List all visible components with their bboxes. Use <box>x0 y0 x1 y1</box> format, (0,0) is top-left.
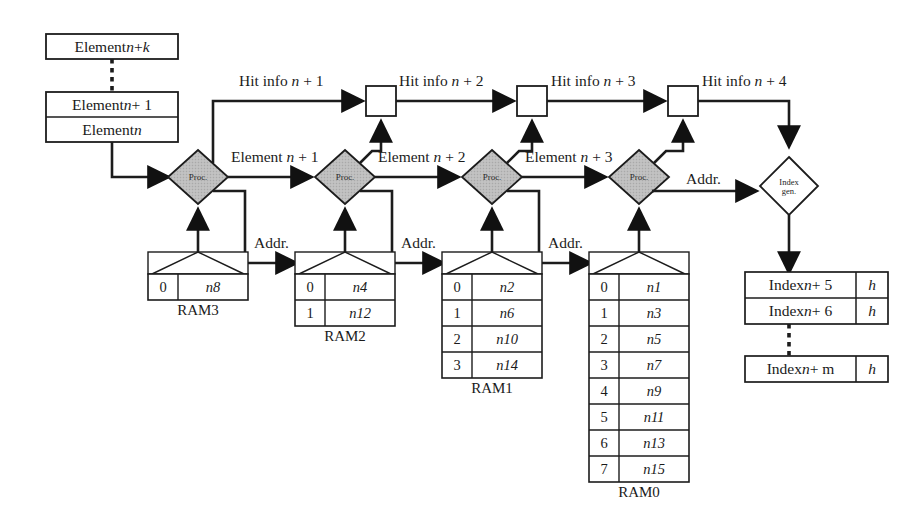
index-gen-line2: gen. <box>782 187 796 197</box>
element-flow-label-1: Element n + 1 <box>231 148 319 166</box>
ram1-decoder <box>442 252 542 274</box>
ram1-label: RAM1 <box>442 380 542 397</box>
ram0-cell-value-1: n3 <box>619 300 689 326</box>
addr-label-3: Addr. <box>548 234 583 252</box>
proc-2-label: Proc. <box>318 168 372 186</box>
ram0-cell-addr-4: 4 <box>589 378 619 404</box>
edge-elementlist-to-proc1 <box>112 142 168 177</box>
proc-1-label: Proc. <box>171 168 225 186</box>
element-list-bottom-label: Element n <box>46 117 178 142</box>
ram3-cell-value: n8 <box>178 274 248 300</box>
ram1-cell-addr-3: 3 <box>442 352 472 378</box>
ram3-label: RAM3 <box>148 302 248 319</box>
element-flow-label-2: Element n + 2 <box>378 148 466 166</box>
hit-register-1 <box>366 86 396 116</box>
ram1-cell-value-3: n14 <box>472 352 542 378</box>
ram1-cell-addr-2: 2 <box>442 326 472 352</box>
ram0-cell-addr-2: 2 <box>589 326 619 352</box>
ram0-cell-addr-6: 6 <box>589 430 619 456</box>
addr-label-1: Addr. <box>254 234 289 252</box>
ram1-cell-value-0: n2 <box>472 274 542 300</box>
ram2-label: RAM2 <box>295 328 395 345</box>
index-row-last-label: Index n + m <box>745 356 856 382</box>
ram1-cell-value-2: n10 <box>472 326 542 352</box>
hit-info-label-3: Hit info n + 3 <box>551 72 636 90</box>
ram0-cell-addr-5: 5 <box>589 404 619 430</box>
ram0-label: RAM0 <box>589 484 689 501</box>
ram0-cell-addr-7: 7 <box>589 456 619 482</box>
hit-info-label-1: Hit info n + 1 <box>239 72 324 90</box>
diagram-canvas: Element n + k Element n + 1 Element n Pr… <box>0 0 918 527</box>
ram0-cell-addr-3: 3 <box>589 352 619 378</box>
ram3-decoder <box>148 252 248 274</box>
ram2-cell-addr-1: 1 <box>295 300 325 326</box>
ram0-cell-addr-0: 0 <box>589 274 619 300</box>
index-row-last-flag: h <box>856 356 888 382</box>
ram3-cell-addr: 0 <box>148 274 178 300</box>
index-row-1-label: Index n + 6 <box>745 298 856 324</box>
proc-3-label: Proc. <box>465 168 519 186</box>
element-flow-label-3: Element n + 3 <box>525 148 613 166</box>
ram0-cell-value-2: n5 <box>619 326 689 352</box>
index-row-1-flag: h <box>856 298 888 324</box>
hit-register-3 <box>668 86 698 116</box>
element-list-mid-label: Element n + 1 <box>46 92 178 117</box>
ram0-cell-value-5: n11 <box>619 404 689 430</box>
index-row-0-label: Index n + 5 <box>745 272 856 298</box>
ram2-cell-addr-0: 0 <box>295 274 325 300</box>
index-row-0-flag: h <box>856 272 888 298</box>
ram1-cell-addr-0: 0 <box>442 274 472 300</box>
ram2-cell-value-1: n12 <box>325 300 395 326</box>
ram0-decoder <box>589 252 689 274</box>
addr-label-4: Addr. <box>686 170 721 188</box>
edge-hitinfo-4 <box>698 101 789 146</box>
addr-label-2: Addr. <box>401 234 436 252</box>
element-list-top-label: Element n + k <box>46 34 178 59</box>
ram2-decoder <box>295 252 395 274</box>
ram0-cell-value-4: n9 <box>619 378 689 404</box>
ram0-cell-value-7: n15 <box>619 456 689 482</box>
hit-info-label-2: Hit info n + 2 <box>399 72 484 90</box>
ram0-cell-addr-1: 1 <box>589 300 619 326</box>
edge-proc4-to-register3 <box>654 122 683 163</box>
ram0-cell-value-3: n7 <box>619 352 689 378</box>
ram2-cell-value-0: n4 <box>325 274 395 300</box>
proc-4-label: Proc. <box>612 168 666 186</box>
ram1-cell-addr-1: 1 <box>442 300 472 326</box>
ram0-cell-value-6: n13 <box>619 430 689 456</box>
index-gen-label: Index gen. <box>763 176 815 198</box>
hit-register-2 <box>517 86 547 116</box>
ram1-cell-value-1: n6 <box>472 300 542 326</box>
hit-info-label-4: Hit info n + 4 <box>702 72 787 90</box>
ram0-cell-value-0: n1 <box>619 274 689 300</box>
